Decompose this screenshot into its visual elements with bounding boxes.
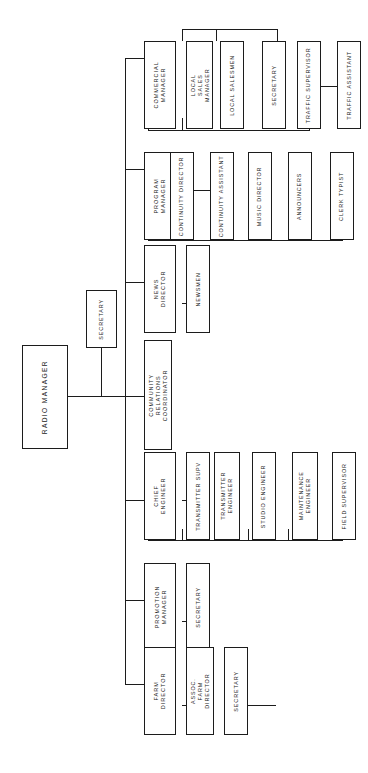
connector-stub-farm (125, 684, 144, 685)
node-label: SECRETARY (195, 587, 202, 628)
node-label: MAINTENANCE ENGINEER (298, 471, 312, 520)
connector-to-studio-engineer (248, 529, 249, 541)
node-traffic-assistant[interactable]: TRAFFIC ASSISTANT (337, 41, 361, 129)
connector-main-spine-lower (125, 396, 126, 684)
node-continuity-director-box[interactable]: CONTINUITY DIRECTOR (170, 152, 194, 240)
node-secretary-promo[interactable]: SECRETARY (186, 563, 210, 651)
node-label: CONTINUITY DIRECTOR (179, 156, 186, 236)
node-label: PROGRAM MANAGER (153, 178, 167, 213)
node-assoc-farm-director[interactable]: ASSOC. FARM DIRECTOR (186, 647, 214, 735)
connector-commercial-rail (148, 130, 309, 131)
node-label: SECRETARY (271, 65, 278, 106)
connector-to-maintenance-engineer (288, 529, 289, 541)
node-label: LOCAL SALESMEN (229, 55, 236, 116)
node-commercial-manager[interactable]: COMMERCIAL MANAGER (144, 41, 176, 129)
node-promotion-manager[interactable]: PROMOTION MANAGER (144, 563, 176, 651)
node-label: NEWS DIRECTOR (153, 271, 167, 308)
node-traffic-supervisor[interactable]: TRAFFIC SUPERVISOR (297, 41, 321, 129)
connector-commercial-to-sales-mgr (182, 118, 183, 131)
node-label: LOCAL SALES MANAGER (189, 68, 209, 102)
node-label: RADIO MANAGER (41, 360, 49, 434)
connector-stub-chief-engineer (125, 500, 144, 501)
connector-to-local-salesmen (216, 29, 217, 41)
node-secretary-sales[interactable]: SECRETARY (262, 41, 286, 129)
node-label: PROMOTION MANAGER (153, 586, 167, 629)
node-label: MUSIC DIRECTOR (257, 166, 264, 226)
org-chart: RADIO MANAGER SECRETARY COMMERCIAL MANAG… (0, 0, 368, 773)
node-community-relations[interactable]: COMMUNITY RELATIONS COORDINATOR (144, 340, 172, 450)
node-label: CHIEF ENGINEER (153, 478, 167, 515)
node-label: TRANSMITTER ENGINEER (220, 472, 234, 520)
node-label: ASSOC. FARM DIRECTOR (190, 673, 210, 708)
connector-stub-promotion (125, 600, 144, 601)
node-label: STUDIO ENGINEER (261, 464, 268, 528)
node-label: TRANSMITTER SUPV (195, 462, 202, 531)
connector-sales-rail-up (182, 29, 183, 41)
node-farm-director[interactable]: FARM DIRECTOR (144, 647, 176, 735)
connector-stub-community (101, 396, 144, 397)
connector-stub-program (125, 169, 144, 170)
node-transmitter-supv[interactable]: TRANSMITTER SUPV (186, 452, 210, 540)
node-label: CONTINUITY ASSISTANT (219, 155, 226, 237)
node-label: COMMUNITY RELATIONS COORDINATOR (148, 369, 169, 421)
connector-sales-children-rail (182, 29, 277, 30)
node-label: SECRETARY (233, 671, 240, 712)
node-local-salesmen[interactable]: LOCAL SALESMEN (220, 41, 244, 129)
node-secretary-farm[interactable]: SECRETARY (224, 647, 248, 735)
node-radio-manager[interactable]: RADIO MANAGER (22, 345, 68, 449)
connector-secretary-staff (101, 348, 102, 397)
connector-assoc-to-secretary (248, 705, 276, 706)
node-label: FIELD SUPERVISOR (341, 463, 348, 529)
node-label: NEWSMEN (195, 272, 202, 306)
connector-to-transmitter-supv (182, 529, 183, 541)
connector-engineer-rail (148, 540, 342, 541)
node-secretary-exec[interactable]: SECRETARY (86, 290, 117, 348)
node-label: TRAFFIC SUPERVISOR (306, 47, 313, 123)
connector-to-secretary-sales (277, 29, 278, 41)
node-local-sales-manager[interactable]: LOCAL SALES MANAGER (186, 41, 213, 129)
node-continuity-assistant[interactable]: CONTINUITY ASSISTANT (210, 152, 234, 240)
node-label: FARM DIRECTOR (153, 673, 167, 710)
node-transmitter-engineer[interactable]: TRANSMITTER ENGINEER (214, 452, 240, 540)
node-clerk-typist[interactable]: CLERK TYPIST (330, 152, 354, 240)
node-label: SECRETARY (98, 299, 105, 340)
node-newsmen[interactable]: NEWSMEN (186, 245, 210, 333)
connector-stub-commercial (125, 58, 144, 59)
node-label: TRAFFIC ASSISTANT (346, 51, 353, 120)
node-maintenance-engineer[interactable]: MAINTENANCE ENGINEER (292, 452, 318, 540)
node-label: COMMERCIAL MANAGER (153, 61, 167, 108)
connector-main-spine (125, 58, 126, 396)
node-chief-engineer[interactable]: CHIEF ENGINEER (144, 452, 176, 540)
node-music-director-box[interactable]: MUSIC DIRECTOR (248, 152, 272, 240)
connector-stub-news (125, 282, 144, 283)
node-label: ANNOUNCERS (297, 172, 304, 219)
node-news-director[interactable]: NEWS DIRECTOR (144, 245, 176, 333)
node-announcers-box[interactable]: ANNOUNCERS (288, 152, 312, 240)
node-studio-engineer[interactable]: STUDIO ENGINEER (252, 452, 276, 540)
node-field-supervisor[interactable]: FIELD SUPERVISOR (332, 452, 356, 540)
connector-program-rail (148, 240, 342, 241)
node-label: CLERK TYPIST (339, 171, 346, 220)
